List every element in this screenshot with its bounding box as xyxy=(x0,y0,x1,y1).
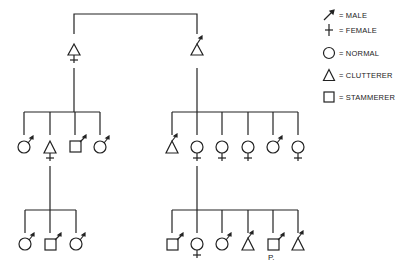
gen2-left-1-male-normal-icon xyxy=(18,136,33,153)
male-arrow-icon xyxy=(322,8,336,22)
gen3-right-connector xyxy=(172,210,298,233)
gen3-right-4-male-clutterer-icon xyxy=(242,231,254,250)
gen3-left-2-male-stammerer-icon xyxy=(45,233,61,250)
gen1-connector xyxy=(74,14,197,34)
gen2-left-2-female-clutterer-icon xyxy=(44,141,56,161)
gen2-left-3-male-stammerer-icon xyxy=(70,135,86,152)
legend-stammerer: = STAMMERER xyxy=(322,90,395,104)
gen3-right-1-male-stammerer-icon xyxy=(167,233,183,250)
gen2-right-5-male-normal-icon xyxy=(267,136,282,153)
gen3-left-3-male-normal-icon xyxy=(70,233,85,250)
gen2-right-6-female-normal-icon xyxy=(292,141,304,161)
legend-male-label: = MALE xyxy=(339,11,367,20)
pedigree-chart xyxy=(0,0,417,271)
gen3-right-6-male-clutterer-icon xyxy=(292,231,304,250)
legend-clutterer-label: = CLUTTERER xyxy=(339,71,393,80)
legend-female-label: = FEMALE xyxy=(339,26,377,35)
g1-father-triangle-icon xyxy=(191,36,203,55)
legend-stammerer-label: = STAMMERER xyxy=(339,93,395,102)
g1-mother-triangle-icon xyxy=(68,44,80,63)
gen3-right-3-male-normal-icon xyxy=(216,233,231,250)
proband-label: P. xyxy=(268,253,275,262)
gen3-left-1-male-normal-icon xyxy=(19,233,34,250)
gen2-left-connector xyxy=(24,112,100,135)
gen2-right-2-female-normal-icon xyxy=(191,141,203,161)
legend-male: = MALE xyxy=(322,8,367,22)
female-cross-icon xyxy=(322,23,336,37)
gen2-right-4-female-normal-icon xyxy=(242,141,254,161)
gen2-right-1-male-clutterer-icon xyxy=(166,134,178,153)
gen2-left-4-male-normal-icon xyxy=(94,136,109,153)
legend-female: = FEMALE xyxy=(322,23,377,37)
circle-icon xyxy=(322,46,336,60)
gen3-right-5-male-stammerer-proband-icon xyxy=(268,233,284,250)
legend-normal-label: = NORMAL xyxy=(339,49,379,58)
gen3-left-connector xyxy=(25,210,76,233)
triangle-icon xyxy=(322,68,336,82)
gen3-right-2-female-normal-icon xyxy=(191,238,203,258)
gen2-right-connector xyxy=(172,112,298,135)
legend-clutterer: = CLUTTERER xyxy=(322,68,393,82)
legend-normal: = NORMAL xyxy=(322,46,379,60)
square-icon xyxy=(322,90,336,104)
gen2-right-3-female-normal-icon xyxy=(216,141,228,161)
